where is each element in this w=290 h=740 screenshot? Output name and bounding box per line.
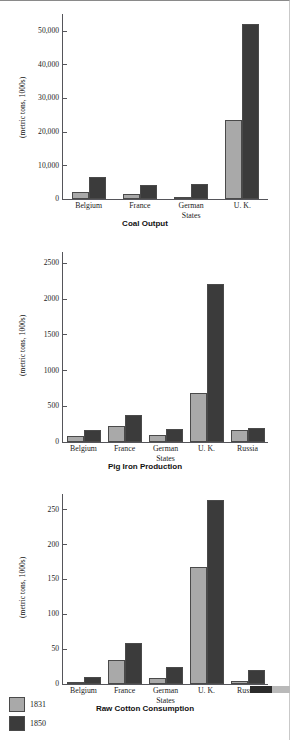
y-tick-mark: [63, 509, 67, 510]
bar-1850-uk: [207, 284, 224, 442]
bar-group: [186, 252, 227, 442]
x-axis-label: Belgium: [63, 442, 104, 463]
chart-coal-output: (metric tons, 1000s) BelgiumFranceGerman…: [0, 6, 290, 240]
bar-group: [114, 14, 165, 199]
y-tick-mark: [63, 31, 67, 32]
plot-area-1: BelgiumFranceGermanStatesU. K.Russia 050…: [62, 252, 268, 443]
y-axis-title-1: (metric tons, 1000s): [14, 270, 30, 420]
series-legend: 1831 1850: [9, 697, 71, 735]
bar-group: [63, 252, 104, 442]
bar-group-container-2: [63, 494, 268, 684]
x-axis-labels-2: BelgiumFranceGermanStatesU. K.Russia: [63, 684, 268, 705]
bar-group: [104, 494, 145, 684]
bar-group-container-1: [63, 252, 268, 442]
legend-swatch-1850: [9, 716, 25, 731]
x-axis-label: U. K.: [186, 442, 227, 463]
bar-group: [104, 252, 145, 442]
y-tick-label: 150: [48, 575, 63, 583]
y-tick-mark: [63, 649, 67, 650]
bar-1850-germanstates: [191, 184, 208, 199]
bar-1850-germanstates: [166, 667, 183, 684]
bar-group: [145, 252, 186, 442]
x-axis-label: U. K.: [186, 684, 227, 705]
bar-1850-belgium: [89, 177, 106, 199]
bar-group: [186, 494, 227, 684]
y-tick-mark: [63, 614, 67, 615]
bar-1850-uk: [207, 500, 224, 684]
y-tick-mark: [63, 132, 67, 133]
bar-1850-belgium: [84, 430, 101, 442]
bar-1831-belgium: [72, 192, 89, 199]
bar-1831-uk: [225, 120, 242, 199]
bar-group: [63, 14, 114, 199]
bar-1850-france: [125, 415, 142, 442]
x-axis-label: U. K.: [217, 199, 268, 220]
x-axis-label: GermanStates: [166, 199, 217, 220]
y-tick-label: 100: [48, 610, 63, 618]
x-axis-label: Russia: [227, 442, 268, 463]
bar-1850-russia: [248, 428, 265, 442]
x-axis-label: GermanStates: [145, 442, 186, 463]
bar-group: [63, 494, 104, 684]
x-axis-label: France: [104, 442, 145, 463]
plot-area-2: BelgiumFranceGermanStatesU. K.Russia 050…: [62, 494, 268, 685]
bar-1831-uk: [190, 393, 207, 442]
y-tick-label: 50: [51, 645, 63, 653]
bar-1850-belgium: [84, 677, 101, 684]
y-tick-label: 1000: [44, 367, 63, 375]
y-tick-label: 10,000: [38, 162, 63, 170]
y-axis-title-2: (metric tons, 1000s): [14, 512, 30, 662]
y-tick-mark: [63, 98, 67, 99]
y-tick-mark: [63, 263, 67, 264]
bar-group: [145, 494, 186, 684]
bar-group: [227, 252, 268, 442]
y-tick-label: 2500: [44, 259, 63, 267]
chart-title-1: Pig Iron Production: [0, 462, 290, 471]
y-tick-label: 0: [55, 680, 63, 688]
x-axis-label: France: [114, 199, 165, 220]
bar-1850-germanstates: [166, 429, 183, 442]
y-tick-mark: [63, 684, 67, 685]
y-tick-label: 0: [55, 438, 63, 446]
bar-1831-uk: [190, 567, 207, 684]
y-tick-label: 250: [48, 506, 63, 514]
legend-item-1831: 1831: [9, 697, 71, 712]
bar-1831-france: [108, 426, 125, 442]
y-tick-mark: [63, 334, 67, 335]
bar-chart-figure: (metric tons, 1000s) BelgiumFranceGerman…: [0, 0, 290, 740]
bar-group: [227, 494, 268, 684]
bar-1850-france: [125, 643, 142, 684]
x-axis-labels-1: BelgiumFranceGermanStatesU. K.Russia: [63, 442, 268, 463]
y-tick-label: 500: [48, 402, 63, 410]
y-tick-label: 50,000: [38, 27, 63, 35]
y-tick-label: 2000: [44, 295, 63, 303]
y-tick-mark: [63, 544, 67, 545]
chart-title-0: Coal Output: [0, 219, 290, 228]
legend-label-1831: 1831: [30, 700, 46, 709]
y-tick-mark: [63, 299, 67, 300]
legend-swatch-1831: [9, 697, 25, 712]
bar-1850-uk: [242, 24, 259, 199]
x-axis-labels-0: BelgiumFranceGermanStatesU. K.: [63, 199, 268, 220]
bar-1831-germanstates: [149, 435, 166, 442]
chart-pig-iron-production: (metric tons, 1000s) BelgiumFranceGerman…: [0, 244, 290, 482]
x-axis-label: Belgium: [63, 199, 114, 220]
y-tick-label: 40,000: [38, 61, 63, 69]
bar-1850-russia: [248, 670, 265, 684]
legend-item-1850: 1850: [9, 716, 71, 731]
y-tick-label: 30,000: [38, 94, 63, 102]
y-tick-label: 200: [48, 541, 63, 549]
bar-group-container-0: [63, 14, 268, 199]
bar-group: [166, 14, 217, 199]
bar-1831-france: [108, 660, 125, 684]
y-tick-label: 1500: [44, 331, 63, 339]
y-tick-mark: [63, 199, 67, 200]
y-tick-mark: [63, 406, 67, 407]
x-axis-label: GermanStates: [145, 684, 186, 705]
y-tick-mark: [63, 64, 67, 65]
x-axis-label: France: [104, 684, 145, 705]
y-axis-title-0: (metric tons, 1000s): [14, 32, 30, 182]
page-corner-mark: [250, 686, 290, 693]
y-tick-label: 20,000: [38, 128, 63, 136]
y-tick-mark: [63, 579, 67, 580]
